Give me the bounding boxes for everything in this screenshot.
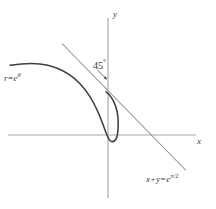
spiral-curve (10, 63, 118, 141)
degree-icon: ° (103, 58, 106, 67)
tangent-rhs-exponent: π/2 (170, 172, 178, 179)
curve-equation-exponent: θ (18, 71, 21, 78)
x-axis-label: x (197, 137, 201, 146)
angle-annotation-label: 45° (93, 59, 106, 71)
plot-canvas (0, 0, 216, 209)
angle-value: 45 (93, 60, 103, 71)
y-axis-label: y (113, 10, 117, 19)
polar-spiral-figure: r=eθ 45° x+y=eπ/2 y x (0, 0, 216, 209)
tangent-line (62, 44, 186, 171)
curve-equation-label: r=eθ (4, 72, 21, 83)
tangent-line-equation-label: x+y=eπ/2 (146, 173, 178, 184)
curve-equation-base: r (4, 73, 8, 83)
